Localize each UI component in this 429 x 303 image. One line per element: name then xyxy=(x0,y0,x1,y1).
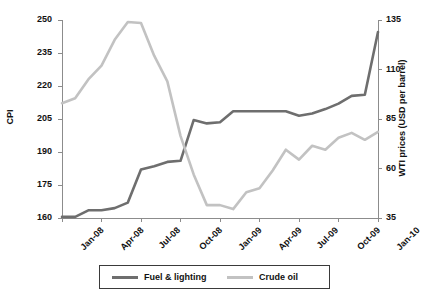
legend-label-fuel-lighting: Fuel & lighting xyxy=(144,272,207,282)
plot-area xyxy=(0,0,429,303)
legend-swatch-crude-oil xyxy=(227,276,253,279)
y-axis-right-tick-label: 35 xyxy=(386,212,414,222)
chart-container: CPI WTI prices (USD per barrel) 16017519… xyxy=(0,0,429,303)
y-axis-left-tick-label: 205 xyxy=(24,113,52,123)
y-axis-left-tick-label: 250 xyxy=(24,14,52,24)
y-axis-left-tick-label: 160 xyxy=(24,212,52,222)
series-line-fuel-lighting xyxy=(62,32,378,217)
chart-legend: Fuel & lighting Crude oil xyxy=(99,265,330,289)
y-axis-left-tick-label: 235 xyxy=(24,47,52,57)
series-lines xyxy=(62,22,378,217)
y-axis-right-tick-label: 60 xyxy=(386,163,414,173)
legend-swatch-fuel-lighting xyxy=(112,276,138,279)
y-axis-left-tick-label: 220 xyxy=(24,80,52,90)
y-axis-right-tick-label: 85 xyxy=(386,113,414,123)
y-axis-left-tick-label: 175 xyxy=(24,179,52,189)
legend-item-crude-oil: Crude oil xyxy=(227,266,298,288)
legend-label-crude-oil: Crude oil xyxy=(259,272,298,282)
series-line-crude-oil xyxy=(62,22,378,209)
y-axis-right-tick-label: 110 xyxy=(386,64,414,74)
y-axis-right-tick-label: 135 xyxy=(386,14,414,24)
legend-item-fuel-lighting: Fuel & lighting xyxy=(112,266,207,288)
y-axis-left-tick-label: 190 xyxy=(24,146,52,156)
